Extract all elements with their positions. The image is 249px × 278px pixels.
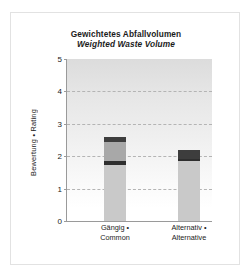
y-tick-label-4: 4 xyxy=(58,87,62,96)
bar-2-segment-1 xyxy=(178,161,200,221)
y-tick-mark-1 xyxy=(64,189,67,190)
y-tick-label-5: 5 xyxy=(58,55,62,64)
y-tick-mark-0 xyxy=(64,221,67,222)
y-tick-label-2: 2 xyxy=(58,152,62,161)
y-tick-mark-4 xyxy=(64,91,67,92)
bar-2[interactable] xyxy=(178,150,200,221)
bar-1-segment-4 xyxy=(104,137,126,142)
bar-1-segment-2 xyxy=(104,161,126,165)
y-tick-mark-3 xyxy=(64,124,67,125)
x-axis-label-2-line-1: Alternativ • xyxy=(145,223,233,233)
chart-figure: Gewichtetes Abfallvolumen Weighted Waste… xyxy=(10,12,240,265)
gridline-4 xyxy=(67,91,212,92)
plot-area: 012345 Gängig •CommonAlternativ •Alterna… xyxy=(66,59,212,222)
bar-1[interactable] xyxy=(104,137,126,221)
y-tick-mark-2 xyxy=(64,156,67,157)
y-tick-label-3: 3 xyxy=(58,119,62,128)
bar-1-segment-3 xyxy=(104,142,126,161)
chart-title-block: Gewichtetes Abfallvolumen Weighted Waste… xyxy=(11,29,241,49)
chart-title-english: Weighted Waste Volume xyxy=(11,39,241,49)
x-axis-label-2: Alternativ •Alternative xyxy=(145,223,233,243)
y-tick-label-1: 1 xyxy=(58,184,62,193)
y-tick-label-0: 0 xyxy=(58,217,62,226)
bar-2-segment-4 xyxy=(178,150,200,160)
bar-2-segment-2 xyxy=(178,159,200,161)
bar-1-segment-1 xyxy=(104,165,126,221)
gridline-3 xyxy=(67,124,212,125)
chart-title-german: Gewichtetes Abfallvolumen xyxy=(11,29,241,39)
y-tick-mark-5 xyxy=(64,59,67,60)
x-axis-label-2-line-2: Alternative xyxy=(145,233,233,243)
y-axis-title: Bewertung • Rating xyxy=(29,93,40,193)
